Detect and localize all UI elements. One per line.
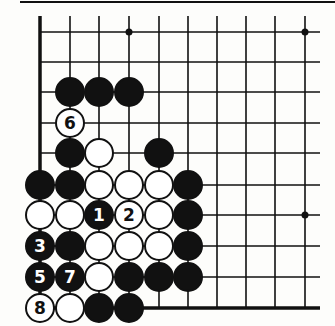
white-stone — [56, 201, 84, 229]
star-point — [302, 29, 309, 36]
white-stone — [115, 232, 143, 260]
black-stone — [145, 263, 173, 291]
black-stone-3: 3 — [26, 232, 54, 260]
white-stone — [145, 232, 173, 260]
black-stone — [115, 78, 143, 106]
white-stone-8: 8 — [26, 294, 54, 322]
white-stone — [85, 232, 113, 260]
move-number: 1 — [93, 205, 105, 225]
move-number: 7 — [64, 267, 76, 287]
move-number: 3 — [34, 236, 46, 256]
white-stone — [145, 201, 173, 229]
black-stone — [56, 139, 84, 167]
star-point — [302, 212, 309, 219]
black-stone — [56, 78, 84, 106]
move-number: 5 — [34, 267, 46, 287]
black-stone — [115, 294, 143, 322]
white-stone-2: 2 — [115, 201, 143, 229]
black-stone — [26, 171, 54, 199]
white-stone — [85, 171, 113, 199]
white-stone-6: 6 — [56, 109, 84, 137]
move-number: 8 — [34, 298, 46, 318]
black-stone — [174, 171, 202, 199]
move-number: 6 — [64, 113, 76, 133]
black-stone — [85, 294, 113, 322]
white-stone — [56, 294, 84, 322]
white-stone — [26, 201, 54, 229]
black-stone — [115, 263, 143, 291]
white-stone — [85, 139, 113, 167]
black-stone — [174, 263, 202, 291]
black-stone — [145, 139, 173, 167]
white-stone — [145, 171, 173, 199]
white-stone — [115, 171, 143, 199]
stones: 6123578 — [26, 78, 202, 322]
black-stone — [56, 171, 84, 199]
black-stone — [174, 232, 202, 260]
black-stone — [85, 78, 113, 106]
black-stone — [56, 232, 84, 260]
move-number: 2 — [123, 205, 135, 225]
black-stone-1: 1 — [85, 201, 113, 229]
black-stone-7: 7 — [56, 263, 84, 291]
black-stone — [174, 201, 202, 229]
go-diagram: 6123578 — [0, 0, 335, 326]
go-board: 6123578 — [0, 0, 335, 326]
black-stone-5: 5 — [26, 263, 54, 291]
star-point — [126, 29, 133, 36]
white-stone — [85, 263, 113, 291]
